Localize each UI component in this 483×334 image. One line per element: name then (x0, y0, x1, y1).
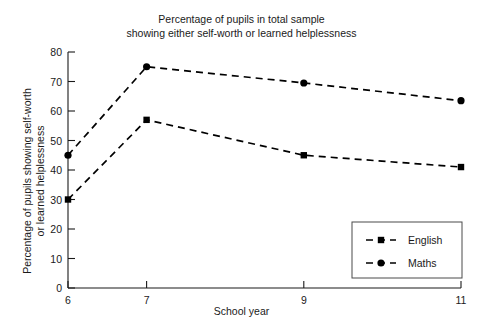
legend-label-maths: Maths (408, 257, 437, 269)
data-series-group (64, 63, 464, 203)
y-tick-label: 10 (50, 253, 62, 265)
data-point-maths (300, 79, 307, 86)
data-point-maths (143, 63, 150, 70)
data-point-english (301, 152, 307, 158)
y-tick-group: 01020304050607080 (50, 46, 75, 294)
y-tick-label: 80 (50, 46, 62, 58)
y-tick-label: 20 (50, 223, 62, 235)
x-tick-label: 9 (301, 294, 307, 306)
data-point-english (458, 164, 464, 170)
data-point-maths (64, 152, 71, 159)
x-tick-label: 11 (456, 294, 467, 306)
legend-box (352, 222, 462, 278)
x-tick-group: 67911 (65, 281, 467, 306)
y-tick-label: 40 (50, 164, 62, 176)
legend-marker-english (378, 237, 384, 243)
x-tick-label: 6 (65, 294, 71, 306)
series-line-english (68, 120, 461, 200)
legend-label-english: English (408, 234, 443, 246)
y-tick-label: 0 (56, 282, 62, 294)
data-point-english (65, 196, 71, 202)
y-tick-label: 60 (50, 105, 62, 117)
series-line-maths (68, 67, 461, 156)
y-tick-label: 70 (50, 76, 62, 88)
x-tick-label: 7 (144, 294, 150, 306)
legend-marker-maths (377, 259, 384, 266)
chart-legend: EnglishMaths (352, 222, 462, 278)
y-tick-label: 30 (50, 194, 62, 206)
chart-figure: Percentage of pupils in total sample sho… (0, 0, 483, 334)
y-tick-label: 50 (50, 135, 62, 147)
data-point-english (143, 117, 149, 123)
plot-area: 01020304050607080 67911 EnglishMaths (0, 0, 483, 334)
data-point-maths (457, 97, 464, 104)
